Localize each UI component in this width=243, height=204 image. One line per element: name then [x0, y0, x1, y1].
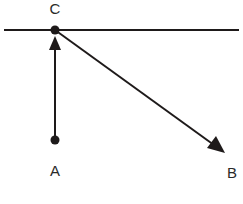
- point-a-label: A: [50, 162, 60, 179]
- point-a-dot: [51, 136, 60, 145]
- point-c-dot: [51, 26, 60, 35]
- arrow-c-to-b-shaft: [55, 30, 214, 145]
- arrow-a-to-c-head: [49, 36, 61, 50]
- point-c-label: C: [50, 0, 61, 17]
- point-b-label: B: [227, 164, 237, 181]
- diagram-canvas: C A B: [0, 0, 243, 204]
- arrow-c-to-b-head: [207, 136, 225, 153]
